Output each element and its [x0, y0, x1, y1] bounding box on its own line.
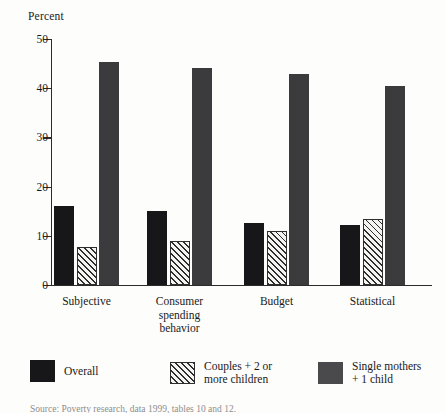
x-axis-label: Subjective	[41, 295, 133, 309]
x-axis-label: Statistical	[327, 295, 419, 309]
y-axis-title: Percent	[28, 10, 64, 22]
bar-group	[244, 39, 309, 285]
bar-group	[340, 39, 405, 285]
bar	[77, 247, 97, 285]
x-axis-line	[51, 285, 432, 286]
bar	[385, 86, 405, 285]
legend-swatch-single	[318, 362, 343, 384]
x-axis-label: Consumer spending behavior	[134, 295, 226, 336]
bar	[170, 241, 190, 285]
bar	[340, 225, 360, 285]
bar	[363, 219, 383, 285]
legend-label: Single mothers + 1 child	[352, 360, 421, 385]
bar	[192, 68, 212, 285]
legend-item: Single mothers + 1 child	[318, 360, 421, 385]
legend-swatch-couples	[170, 362, 195, 384]
legend-label: Overall	[64, 365, 98, 378]
bar-group	[147, 39, 212, 285]
x-axis-label: Budget	[231, 295, 323, 309]
bar	[147, 211, 167, 285]
y-tick-label: 40	[37, 82, 49, 94]
plot-area: 01020304050	[52, 39, 432, 285]
bar	[244, 223, 264, 285]
legend-item: Overall	[30, 360, 98, 382]
y-tick-label: 20	[37, 181, 49, 193]
y-tick-label: 0	[42, 279, 48, 291]
bar-chart: Percent 01020304050 SubjectiveConsumer s…	[0, 0, 445, 413]
source-note: Source: Poverty research, data 1999, tab…	[30, 404, 236, 413]
y-tick-label: 10	[37, 230, 49, 242]
bar	[289, 74, 309, 285]
bar	[54, 206, 74, 285]
y-tick-label: 50	[37, 33, 49, 45]
legend-item: Couples + 2 or more children	[170, 360, 272, 385]
legend-swatch-overall	[30, 360, 55, 382]
legend-label: Couples + 2 or more children	[204, 360, 272, 385]
bar	[99, 62, 119, 285]
bar-group	[54, 39, 119, 285]
chart-legend: OverallCouples + 2 or more childrenSingl…	[30, 360, 430, 394]
y-tick-label: 30	[37, 131, 49, 143]
bar	[267, 231, 287, 285]
